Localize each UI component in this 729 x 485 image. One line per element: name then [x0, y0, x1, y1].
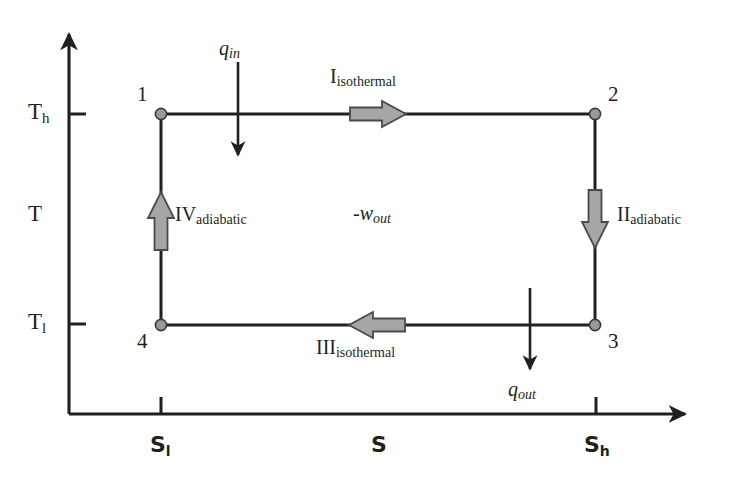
process-label-III: IIIisothermal	[316, 337, 395, 357]
process-arrow-III-left	[349, 312, 405, 338]
process-arrow-I-right	[350, 101, 406, 127]
y-axis-title-text: T	[28, 201, 42, 226]
x-tick-label-sl-sub: l	[166, 443, 171, 459]
process-label-IV-numeral: IV	[175, 203, 196, 225]
process-label-II-numeral: II	[617, 203, 630, 225]
process-label-III-numeral: III	[316, 336, 336, 358]
y-tick-label-tl: Tl	[28, 310, 46, 333]
process-label-IV: IVadiabatic	[175, 204, 247, 224]
w-out-symbol: -w	[353, 202, 373, 224]
state-label-1: 1	[137, 84, 148, 105]
process-label-I-numeral: I	[330, 65, 337, 87]
state-node-2	[589, 108, 600, 119]
q-in-label: qin	[219, 38, 240, 58]
y-axis	[69, 34, 86, 414]
process-label-II-sub: adiabatic	[630, 212, 681, 227]
w-out-label: -wout	[353, 203, 391, 223]
state-node-4	[155, 319, 166, 330]
q-out-label: qout	[508, 379, 536, 399]
process-arrow-II-down	[582, 190, 608, 248]
state-label-3: 3	[608, 331, 619, 352]
x-tick-label-sh-sub: h	[600, 443, 610, 459]
process-arrow-IV-up	[148, 192, 174, 250]
q-out-sub: out	[518, 387, 536, 402]
x-axis-title-text: S	[371, 432, 387, 457]
x-tick-label-sl-symbol: S	[150, 432, 166, 457]
process-label-III-sub: isothermal	[336, 345, 395, 360]
x-axis-title: S	[371, 434, 387, 456]
w-out-sub: out	[373, 211, 391, 226]
process-label-I-sub: isothermal	[337, 74, 396, 89]
y-tick-label-tl-sub: l	[42, 320, 46, 336]
q-in-sub: in	[229, 46, 240, 61]
state-node-3	[589, 319, 600, 330]
state-label-4: 4	[137, 331, 148, 352]
x-tick-label-sl: Sl	[150, 434, 171, 456]
process-label-I: Iisothermal	[330, 66, 396, 86]
x-axis	[69, 397, 685, 414]
y-tick-label-th-symbol: T	[28, 99, 42, 124]
state-node-1	[155, 108, 166, 119]
ts-diagram-figure: Th T Tl Sl S Sh 1 2 3 4 Iisothermal IIad…	[0, 0, 729, 485]
process-label-IV-sub: adiabatic	[196, 212, 247, 227]
q-in-symbol: q	[219, 37, 229, 59]
y-axis-title: T	[28, 202, 42, 225]
y-tick-label-th: Th	[28, 100, 50, 123]
y-tick-label-tl-symbol: T	[28, 309, 42, 334]
x-tick-label-sh: Sh	[584, 434, 610, 456]
state-label-2: 2	[608, 84, 619, 105]
q-out-symbol: q	[508, 378, 518, 400]
x-tick-label-sh-symbol: S	[584, 432, 600, 457]
y-tick-label-th-sub: h	[42, 110, 50, 126]
process-label-II: IIadiabatic	[617, 204, 681, 224]
